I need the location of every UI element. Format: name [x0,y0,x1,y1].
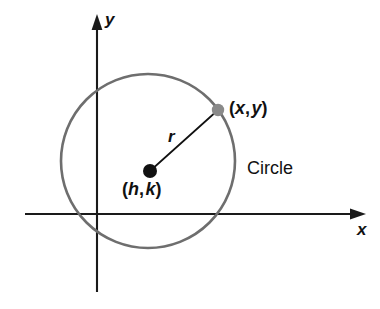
x-axis-arrowhead [350,209,366,220]
center-point-dot [143,164,157,178]
point-on-circle-label: (x, y) [229,99,268,117]
radius-line [150,110,218,171]
figure-canvas: y x r (x, y) (h, k) Circle [0,0,380,309]
center-point-h-var: h [128,179,139,199]
y-axis-label: y [105,11,114,28]
x-axis-label: x [357,221,366,238]
point-on-circle-close-paren: ) [262,98,268,118]
circle-diagram-svg [0,0,380,309]
point-on-circle-comma: , [245,98,250,118]
circle-annotation-label: Circle [247,159,293,177]
radius-label: r [168,128,175,145]
point-on-circle-y-var: y [252,98,262,118]
center-point-comma: , [139,179,144,199]
center-point-close-paren: ) [156,179,162,199]
circle-shape [61,74,235,248]
center-point-label: (h, k) [122,180,162,198]
y-axis-arrowhead [92,14,103,30]
center-point-k-var: k [146,179,156,199]
point-on-circle-x-var: x [235,98,245,118]
point-on-circle-dot [212,104,224,116]
